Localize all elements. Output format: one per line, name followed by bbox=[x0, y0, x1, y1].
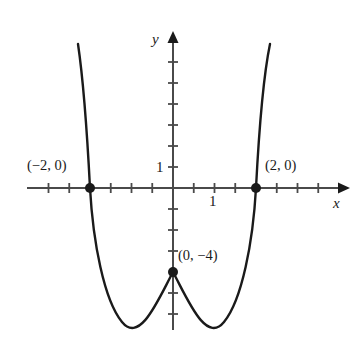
x-axis-label: x bbox=[333, 196, 340, 211]
x-axis-tick-label-one: 1 bbox=[209, 194, 217, 209]
point-right-root bbox=[251, 183, 261, 193]
graph-figure: (−2, 0) (2, 0) (0, −4) 1 1 y x bbox=[0, 0, 360, 360]
label-right-root: (2, 0) bbox=[265, 158, 296, 173]
coordinate-plane bbox=[0, 0, 360, 360]
y-axis-tick-label-one: 1 bbox=[156, 160, 164, 175]
point-left-root bbox=[85, 183, 95, 193]
label-vertex: (0, −4) bbox=[178, 248, 218, 263]
y-axis-label: y bbox=[152, 32, 159, 47]
label-left-root: (−2, 0) bbox=[27, 158, 67, 173]
point-vertex bbox=[168, 267, 178, 277]
x-axis-arrowhead bbox=[338, 183, 350, 194]
y-axis-arrowhead bbox=[168, 31, 179, 43]
